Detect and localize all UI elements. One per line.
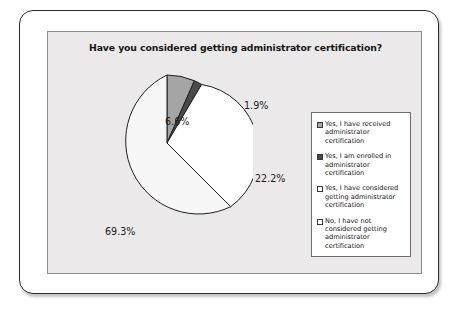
pie-svg bbox=[81, 57, 253, 229]
legend-item-label: Yes, I have considered getting administr… bbox=[325, 184, 406, 209]
chart-panel: Have you considered getting administrato… bbox=[47, 31, 422, 274]
legend-swatch-icon bbox=[317, 219, 323, 225]
legend-item-label: Yes, I have received administrator certi… bbox=[325, 120, 406, 145]
legend-item-label: No, I have not considered getting admini… bbox=[325, 217, 406, 251]
legend-item-enrolled[interactable]: Yes, I am enrolled in administrator cert… bbox=[317, 152, 406, 177]
slice-label-considered: 22.2% bbox=[255, 173, 285, 184]
legend-item-label: Yes, I am enrolled in administrator cert… bbox=[325, 152, 406, 177]
pie-chart bbox=[81, 57, 253, 229]
slice-label-not-considered: 69.3% bbox=[105, 226, 135, 237]
legend-item-not-considered[interactable]: No, I have not considered getting admini… bbox=[317, 217, 406, 251]
report-card-frame: Have you considered getting administrato… bbox=[19, 10, 439, 294]
legend-swatch-icon bbox=[317, 154, 323, 160]
slice-label-enrolled: 1.9% bbox=[244, 100, 268, 111]
chart-title: Have you considered getting administrato… bbox=[48, 42, 423, 53]
legend-item-received[interactable]: Yes, I have received administrator certi… bbox=[317, 120, 406, 145]
legend-swatch-icon bbox=[317, 186, 323, 192]
legend-item-considered[interactable]: Yes, I have considered getting administr… bbox=[317, 184, 406, 209]
legend-swatch-icon bbox=[317, 122, 323, 128]
slice-label-received: 6.6% bbox=[165, 116, 189, 127]
chart-legend: Yes, I have received administrator certi… bbox=[311, 112, 411, 257]
